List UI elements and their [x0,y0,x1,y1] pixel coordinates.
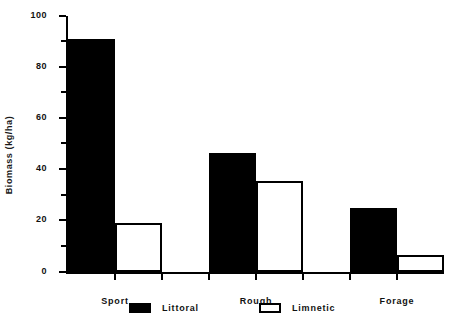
y-tick-major-0: 0 [59,271,66,273]
bar-forage-littoral [350,208,397,272]
legend-label-littoral: Littoral [162,303,199,313]
y-tick-major-80: 80 [59,66,66,68]
bar-forage-limnetic [397,255,444,272]
y-tick-minor-30 [61,194,66,196]
plot-area: 0 20 40 60 80 100 [68,16,444,272]
y-tick-minor-70 [61,91,66,93]
legend-label-limnetic: Limnetic [292,303,335,313]
y-axis-title: Biomass (kg/ha) [0,100,18,210]
legend-swatch-limnetic-icon [259,303,281,313]
legend-item-limnetic: Limnetic [259,303,335,313]
x-tick-3 [255,274,257,280]
chart-legend: Littoral Limnetic [0,303,458,323]
y-tick-label-80: 80 [36,61,47,71]
x-tick-1 [161,274,163,280]
x-tick-2 [208,274,210,280]
y-axis-title-text: Biomass (kg/ha) [4,116,14,195]
x-tick-0 [114,274,116,280]
x-tick-5 [349,274,351,280]
bar-rough-littoral [209,153,256,272]
bar-sport-limnetic [115,223,162,272]
y-tick-major-100: 100 [59,15,66,17]
legend-item-littoral: Littoral [129,303,199,313]
bar-sport-littoral [68,39,115,272]
y-tick-minor-10 [61,245,66,247]
y-tick-label-60: 60 [36,112,47,122]
y-tick-label-100: 100 [30,10,47,20]
bar-rough-limnetic [256,181,303,272]
y-tick-label-20: 20 [36,214,47,224]
y-tick-minor-50 [61,142,66,144]
y-tick-major-20: 20 [59,219,66,221]
y-tick-major-40: 40 [59,168,66,170]
legend-swatch-littoral-icon [129,303,151,313]
y-tick-minor-90 [61,40,66,42]
x-tick-6 [396,274,398,280]
y-tick-label-40: 40 [36,163,47,173]
biomass-bar-chart: Biomass (kg/ha) 0 20 40 60 80 100 [0,0,458,325]
y-tick-major-60: 60 [59,117,66,119]
x-tick-4 [302,274,304,280]
y-tick-label-0: 0 [41,266,47,276]
